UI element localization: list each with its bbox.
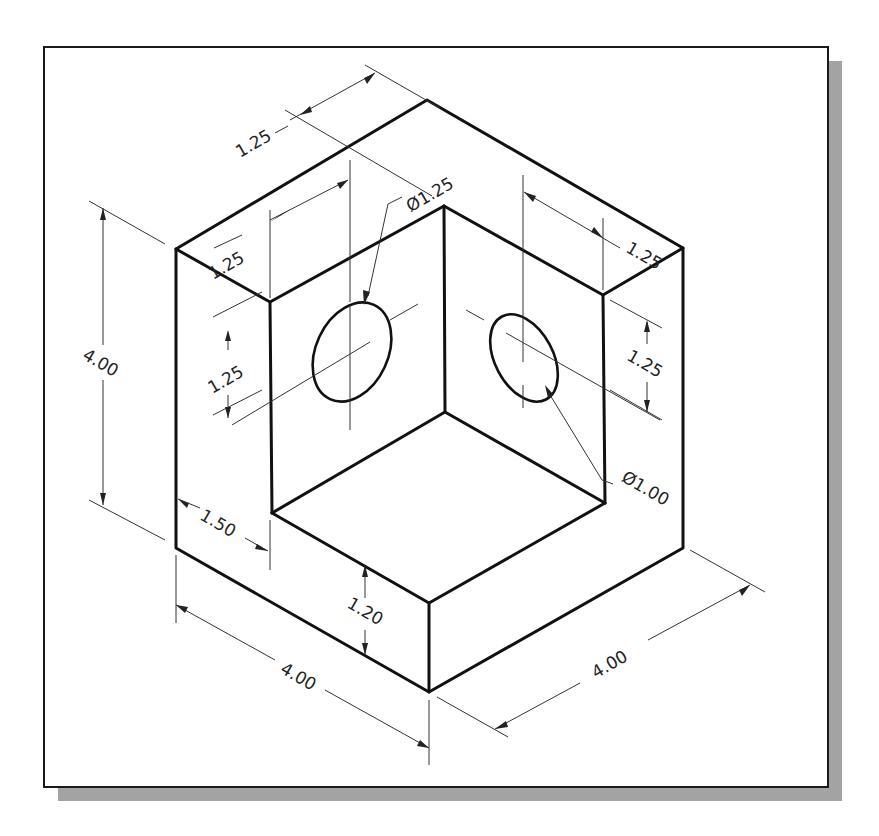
dim-overall-width-left: 4.00 (277, 658, 320, 694)
dim-base-thickness: 1.20 (344, 593, 387, 629)
dim-overall-height: 4.00 (79, 344, 122, 380)
hole-right (466, 175, 660, 420)
dim-overall-width-right: 4.00 (588, 646, 631, 682)
dim-step-width: 1.50 (197, 505, 240, 541)
dim-left-hole-height: 1.25 (204, 361, 247, 397)
dimension-labels: 4.00 1.25 1.25 1.25 1.25 1.25 Ø1.25 Ø1.0… (79, 125, 672, 694)
dim-top-back: 1.25 (232, 125, 275, 161)
dim-right-hole-diameter: Ø1.00 (618, 467, 672, 510)
dim-top-right-wall: 1.25 (623, 237, 666, 273)
isometric-drawing: 4.00 1.25 1.25 1.25 1.25 1.25 Ø1.25 Ø1.0… (0, 0, 879, 836)
dim-right-hole-height: 1.25 (624, 345, 667, 381)
dimension-lines (89, 65, 765, 765)
